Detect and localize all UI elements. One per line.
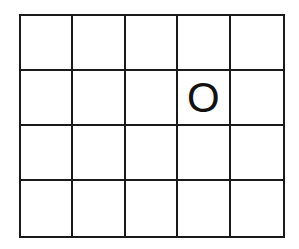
cell-r4-c2[interactable]: [73, 181, 125, 236]
cell-r1-c4[interactable]: [178, 16, 230, 71]
cell-r4-c3[interactable]: [126, 181, 178, 236]
cell-r3-c3[interactable]: [126, 126, 178, 181]
cell-r2-c4-o-mark[interactable]: O: [178, 71, 230, 126]
cell-r3-c4[interactable]: [178, 126, 230, 181]
cell-r1-c2[interactable]: [73, 16, 125, 71]
cell-r4-c1[interactable]: [21, 181, 73, 236]
cell-r1-c1[interactable]: [21, 16, 73, 71]
cell-r4-c5[interactable]: [231, 181, 283, 236]
cell-r3-c2[interactable]: [73, 126, 125, 181]
cell-r4-c4[interactable]: [178, 181, 230, 236]
cell-r2-c2[interactable]: [73, 71, 125, 126]
cell-r2-c5[interactable]: [231, 71, 283, 126]
cell-r3-c1[interactable]: [21, 126, 73, 181]
cell-r1-c3[interactable]: [126, 16, 178, 71]
cell-r3-c5[interactable]: [231, 126, 283, 181]
game-board: O: [19, 14, 285, 238]
cell-r2-c3[interactable]: [126, 71, 178, 126]
cell-r2-c1[interactable]: [21, 71, 73, 126]
cell-r1-c5[interactable]: [231, 16, 283, 71]
